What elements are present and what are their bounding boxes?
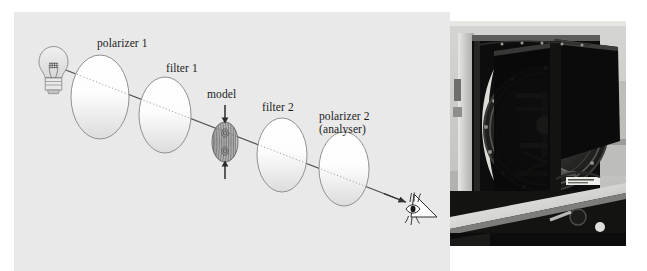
label-model: model xyxy=(207,88,236,101)
optical-setup-diagram xyxy=(14,12,450,271)
eye-icon xyxy=(405,193,437,226)
label-polarizer-1: polarizer 1 xyxy=(97,37,148,50)
load-arrow-bottom xyxy=(222,161,229,180)
diagram-panel: polarizer 1 filter 1 model filter 2 pola… xyxy=(14,12,450,271)
load-arrow-top xyxy=(222,105,229,124)
figure-root: polarizer 1 filter 1 model filter 2 pola… xyxy=(0,0,647,271)
label-filter-1: filter 1 xyxy=(166,62,198,75)
label-analyser: (analyser) xyxy=(319,123,366,136)
label-filter-2: filter 2 xyxy=(262,101,294,114)
label-polarizer-2: polarizer 2 xyxy=(319,110,370,123)
polariscope-apparatus-photo xyxy=(450,21,626,246)
light-bulb-icon xyxy=(39,47,68,94)
